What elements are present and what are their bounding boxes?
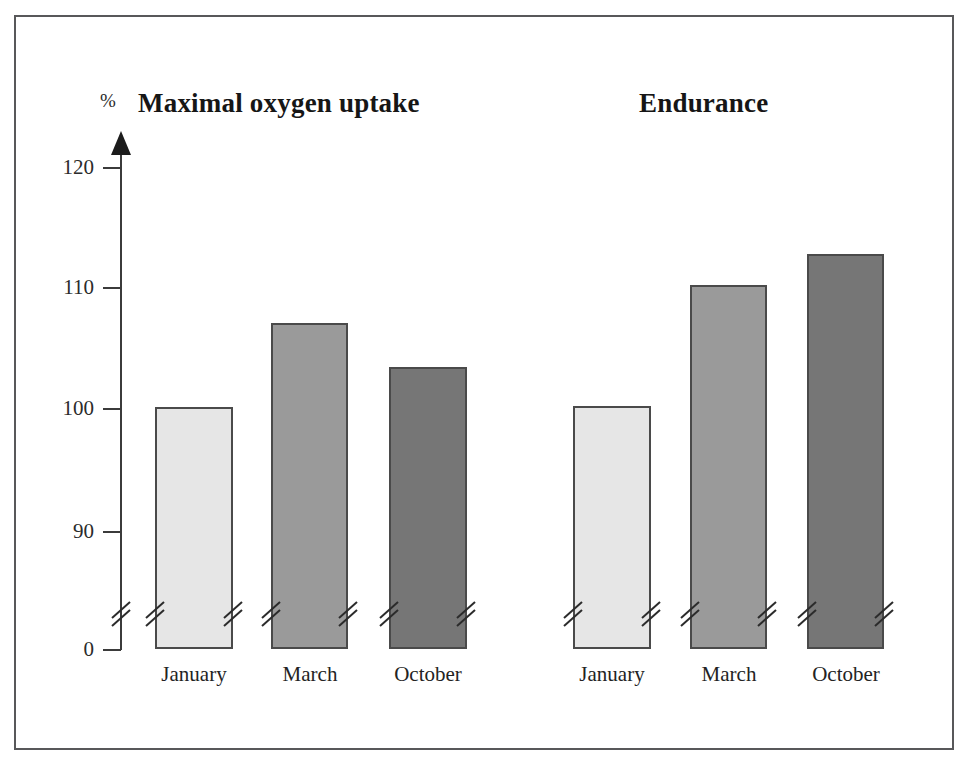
y-tick-label-110-wrap: 110 (42, 275, 94, 297)
y-tick-mark-110 (103, 287, 121, 289)
y-tick-mark-90 (103, 531, 121, 533)
bar-endurance-january[interactable] (573, 406, 651, 649)
y-tick-mark-100 (103, 408, 121, 410)
y-tick-label-90-wrap: 90 (42, 519, 94, 541)
panel-title-maximal-oxygen-uptake: Maximal oxygen uptake (138, 88, 420, 119)
y-axis-break-icon (108, 596, 134, 632)
bar-endurance-october[interactable] (807, 254, 884, 649)
x-label-vo2-october: October (358, 662, 498, 687)
figure-canvas: Maximal oxygen uptake Endurance % 120 11… (0, 0, 967, 772)
y-tick-label-0: 0 (46, 637, 94, 662)
bar-vo2-january[interactable] (155, 407, 233, 649)
bar-vo2-october[interactable] (389, 367, 467, 649)
y-tick-mark-0 (103, 649, 121, 651)
y-axis-unit-label: % (100, 90, 116, 112)
y-tick-label-100-wrap: 100 (42, 396, 94, 418)
bar-endurance-march[interactable] (690, 285, 767, 649)
y-tick-label-120: 120 (46, 155, 94, 180)
y-tick-label-100: 100 (46, 396, 94, 421)
x-label-endurance-october: October (776, 662, 916, 687)
panel-title-endurance: Endurance (639, 88, 768, 119)
bar-vo2-march[interactable] (271, 323, 348, 649)
y-tick-label-120-wrap: 120 (42, 155, 94, 177)
y-axis-arrow-icon (111, 131, 131, 155)
y-tick-label-90: 90 (46, 519, 94, 544)
y-tick-label-110: 110 (46, 275, 94, 300)
y-tick-mark-120 (103, 167, 121, 169)
y-tick-label-0-wrap: 0 (42, 637, 94, 659)
y-axis-line (120, 152, 122, 650)
